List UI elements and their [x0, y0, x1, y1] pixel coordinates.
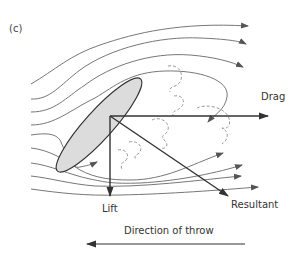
- force-vectors: [110, 116, 268, 196]
- airflow-diagram: [0, 0, 299, 263]
- lift-label: Lift: [102, 204, 118, 214]
- panel-label: (c): [9, 24, 22, 34]
- upper-flow-lines: [31, 25, 248, 125]
- drag-label: Drag: [261, 92, 285, 102]
- direction-of-throw-label: Direction of throw: [124, 226, 214, 236]
- thrown-object: [47, 70, 151, 181]
- resultant-label: Resultant: [231, 200, 278, 210]
